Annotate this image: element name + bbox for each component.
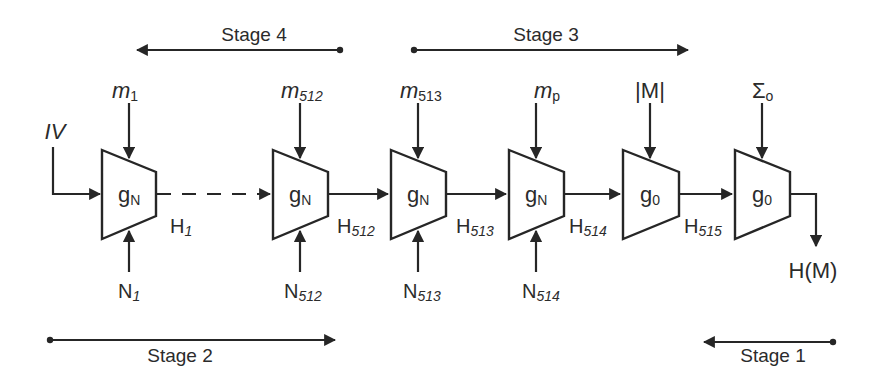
stage-2-start-dot <box>47 337 53 343</box>
compression-block-1: gN m1 N1 H1 <box>102 78 270 304</box>
compression-block-4: gN mp N514 H514 <box>509 78 620 304</box>
final-output-label: H(M) <box>789 258 838 283</box>
block-6-checksum-label: Σo <box>752 78 774 104</box>
block-2-message-label: m512 <box>281 78 323 104</box>
block-4-nonce-label: N514 <box>522 280 560 304</box>
stage-4-label: Stage 4 <box>221 24 287 45</box>
block-1-output-label: H1 <box>170 215 192 239</box>
hash-pipeline-diagram: Stage 4 Stage 3 Stage 2 Stage 1 IV gN m1… <box>0 0 880 390</box>
block-4-output-label: H514 <box>569 215 607 239</box>
block-3-output-label: H513 <box>456 215 494 239</box>
block-5-output-label: H515 <box>684 215 722 239</box>
final-output-arrow <box>791 194 816 246</box>
compression-block-2: gN m512 N512 H512 <box>273 78 388 304</box>
stage-2-indicator: Stage 2 <box>47 337 335 366</box>
iv-label: IV <box>45 119 68 144</box>
stage-3-start-dot <box>411 47 417 53</box>
block-5-length-label: |M| <box>635 78 665 103</box>
block-1-message-label: m1 <box>112 78 138 104</box>
stage-3-indicator: Stage 3 <box>411 24 688 53</box>
compression-block-3: gN m513 N513 H513 <box>391 78 506 304</box>
stage-4-start-dot <box>337 47 343 53</box>
stage-3-label: Stage 3 <box>513 24 579 45</box>
block-3-message-label: m513 <box>400 78 442 104</box>
stage-4-indicator: Stage 4 <box>137 24 343 53</box>
block-2-nonce-label: N512 <box>284 280 322 304</box>
iv-input: IV <box>45 119 100 194</box>
stage-1-start-dot <box>830 339 836 345</box>
stage-1-label: Stage 1 <box>740 345 806 366</box>
stage-2-label: Stage 2 <box>147 345 213 366</box>
block-1-nonce-label: N1 <box>118 280 140 304</box>
finalization-block-2: g0 Σo <box>735 78 816 246</box>
block-2-output-label: H512 <box>337 215 375 239</box>
block-4-message-label: mp <box>534 78 560 104</box>
finalization-block-1: g0 |M| H515 <box>623 78 732 239</box>
stage-1-indicator: Stage 1 <box>704 339 836 366</box>
iv-arrow <box>53 147 100 194</box>
block-3-nonce-label: N513 <box>403 280 441 304</box>
